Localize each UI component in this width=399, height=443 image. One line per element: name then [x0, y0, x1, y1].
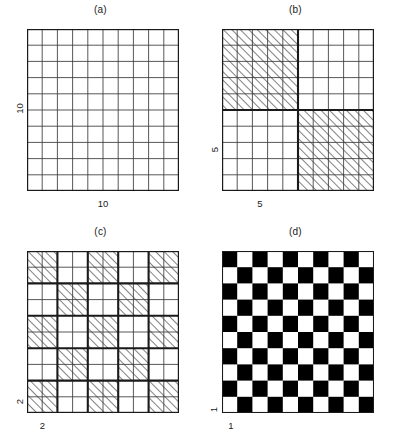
panel-b-caption: (b) [203, 4, 388, 15]
panel-c-y-label: 2 [14, 390, 25, 414]
panel-c-x-label: 2 [27, 420, 58, 431]
panel-d-x-label: 1 [222, 420, 240, 431]
panel-a-x-label: 10 [27, 198, 179, 209]
panel-c-caption: (c) [8, 226, 193, 237]
panel-b-grid [222, 29, 374, 191]
panel-d-grid-svg [222, 251, 374, 413]
panel-c: (c) 2 2 [8, 226, 193, 443]
figure-checkerboard-scales: (a) 10 10 (b) 5 5 (c) 2 2 (d) 1 1 [0, 0, 399, 443]
panel-b-x-label: 5 [222, 198, 298, 209]
panel-a-y-label: 10 [14, 97, 25, 121]
panel-a-grid-svg [27, 29, 179, 191]
panel-d-grid [222, 251, 374, 413]
panel-a: (a) 10 10 [8, 4, 193, 222]
panel-d: (d) 1 1 [203, 226, 388, 443]
panel-d-y-label: 1 [208, 398, 219, 422]
panel-c-grid-svg [27, 251, 179, 413]
panel-b-grid-svg [222, 29, 374, 191]
panel-b-y-label: 5 [209, 138, 220, 162]
panel-b: (b) 5 5 [203, 4, 388, 222]
panel-d-caption: (d) [203, 226, 388, 237]
panel-c-grid [27, 251, 179, 413]
panel-a-grid [27, 29, 179, 191]
panel-a-caption: (a) [8, 4, 193, 15]
